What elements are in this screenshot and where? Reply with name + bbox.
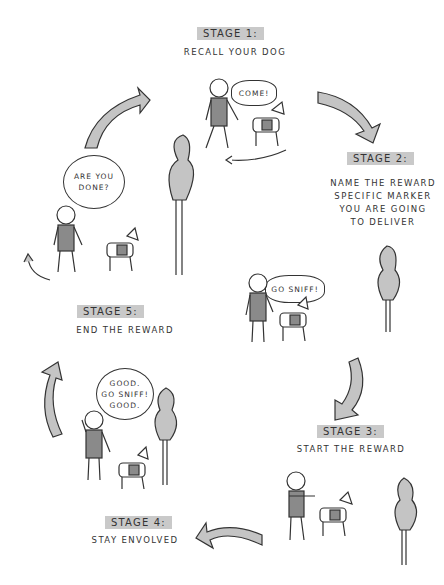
cycle-arrow-icon [318, 92, 380, 143]
dog-icon [280, 297, 308, 341]
dog-icon [107, 228, 138, 271]
cycle-arrow-icon [335, 358, 363, 420]
tree-icon [155, 388, 177, 440]
dog-icon [119, 447, 148, 489]
cycle-arrow-icon [85, 88, 150, 148]
person-icon [206, 79, 238, 148]
dog-icon [253, 102, 284, 146]
person-icon [82, 411, 110, 480]
path-arrow-icon [28, 258, 50, 280]
cycle-arrow-icon [196, 523, 262, 548]
tree-icon [169, 135, 194, 200]
tree-icon [378, 246, 400, 300]
person-icon [287, 472, 315, 540]
tree-icon [395, 478, 417, 530]
person-icon [54, 206, 82, 272]
path-arrow-icon [230, 150, 286, 160]
cycle-arrow-icon [42, 362, 62, 437]
illustration-layer [0, 0, 444, 585]
dog-icon [320, 492, 352, 536]
person-icon [246, 274, 273, 342]
